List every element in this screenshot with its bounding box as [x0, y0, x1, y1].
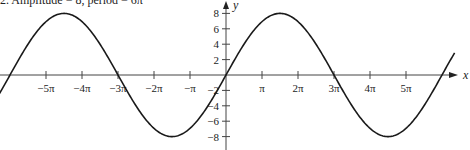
x-tick-label: −2π: [145, 82, 163, 94]
y-tick-label: −8: [207, 131, 219, 143]
x-axis-label: x: [462, 68, 469, 82]
x-tick-label: 2π: [292, 82, 304, 94]
x-tick-label: 4π: [364, 82, 376, 94]
y-axis-label: y: [232, 0, 239, 12]
chart-title: 2. Amplitude = 8, period = 6π: [0, 0, 143, 8]
x-tick-label: π: [259, 82, 265, 94]
y-tick-label: −6: [207, 115, 219, 127]
y-tick-label: 6: [214, 23, 220, 35]
axes: xy: [0, 0, 469, 150]
sine-chart: 2. Amplitude = 8, period = 6π xy −5π−4π−…: [0, 0, 470, 150]
y-tick-label: 4: [214, 38, 220, 50]
y-axis-arrow-icon: [223, 1, 229, 9]
x-tick-label: −π: [184, 82, 196, 94]
x-axis-arrow-icon: [449, 72, 458, 78]
x-tick-label: −5π: [37, 82, 55, 94]
y-tick-label: 8: [214, 7, 220, 19]
x-tick-label: −4π: [73, 82, 91, 94]
y-tick-label: 2: [214, 54, 220, 66]
y-tick-label: −4: [207, 100, 219, 112]
plot-area: xy −5π−4π−3π−2π−ππ2π3π4π5π8642−2−4−6−8: [0, 0, 470, 150]
x-tick-label: 5π: [400, 82, 412, 94]
